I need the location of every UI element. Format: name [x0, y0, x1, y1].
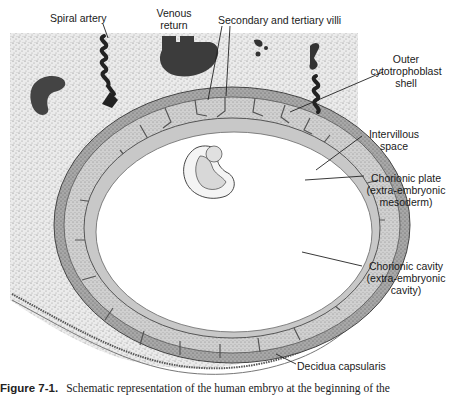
label-intervillous-space: Intervillous space — [359, 128, 429, 152]
diagram-figure: Spiral artery Venous return Secondary an… — [0, 0, 456, 380]
label-venous-return-line1: Venous — [156, 7, 192, 19]
label-chorionic-plate-line2: (extra-embryonic — [358, 184, 454, 196]
chorionic-cavity — [96, 132, 372, 332]
label-venous-return: Venous return — [156, 7, 192, 31]
label-spiral-artery: Spiral artery — [50, 12, 107, 24]
label-chorionic-cavity: Chorionic cavity (extra-embryonic cavity… — [358, 260, 454, 296]
label-outer-line3: shell — [361, 77, 451, 89]
label-chorionic-cavity-line1: Chorionic cavity — [358, 260, 454, 272]
figure-number: Figure 7-1. — [0, 382, 58, 394]
figure-caption: Figure 7-1.Schematic representation of t… — [0, 381, 456, 395]
label-venous-return-line2: return — [156, 19, 192, 31]
label-decidua-capsularis: Decidua capsularis — [297, 360, 386, 372]
label-outer-line1: Outer — [361, 53, 451, 65]
label-chorionic-plate-line3: mesoderm) — [358, 196, 454, 208]
label-outer-line2: cytotrophoblast — [361, 65, 451, 77]
label-chorionic-cavity-line2: (extra-embryonic — [358, 272, 454, 284]
label-chorionic-cavity-line3: cavity) — [358, 284, 454, 296]
label-outer-cytotrophoblast-shell: Outer cytotrophoblast shell — [361, 53, 451, 89]
label-chorionic-plate-line1: Chorionic plate — [358, 172, 454, 184]
caption-text: Schematic representation of the human em… — [66, 382, 390, 394]
label-villi: Secondary and tertiary villi — [218, 14, 341, 26]
label-intervillous-line1: Intervillous — [359, 128, 429, 140]
label-chorionic-plate: Chorionic plate (extra-embryonic mesoder… — [358, 172, 454, 208]
label-intervillous-line2: space — [359, 140, 429, 152]
